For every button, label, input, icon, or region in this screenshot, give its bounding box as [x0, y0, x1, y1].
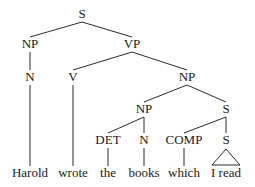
- node-s: S: [222, 101, 229, 116]
- node-np: NP: [136, 101, 153, 116]
- syntax-tree: SNPVPNVNPNPSDETNCOMPSHaroldwrotethebooks…: [0, 0, 255, 187]
- leaf-word-which: which: [168, 165, 200, 180]
- tree-edge: [187, 85, 226, 102]
- tree-edge: [30, 22, 82, 37]
- tree-edge: [184, 117, 226, 133]
- tree-edge: [73, 52, 132, 70]
- node-n: N: [139, 132, 149, 147]
- node-np: NP: [22, 36, 39, 51]
- node-v: V: [68, 69, 78, 84]
- node-s: S: [222, 132, 229, 147]
- node-comp: COMP: [166, 132, 203, 147]
- node-np: NP: [179, 69, 196, 84]
- tree-edge: [132, 52, 187, 70]
- leaf-word-books: books: [128, 165, 159, 180]
- tree-edge: [82, 22, 132, 37]
- leaf-word-wrote: wrote: [58, 165, 88, 180]
- node-s: S: [78, 6, 85, 21]
- node-vp: VP: [124, 36, 141, 51]
- leaf-word-i-read: I read: [211, 165, 241, 180]
- leaf-word-the: the: [100, 165, 116, 180]
- node-n: N: [25, 69, 35, 84]
- tree-edge: [144, 85, 187, 102]
- leaf-word-harold: Harold: [12, 165, 49, 180]
- node-det: DET: [95, 132, 120, 147]
- triangle-edge: [212, 149, 240, 165]
- tree-edge: [108, 117, 144, 133]
